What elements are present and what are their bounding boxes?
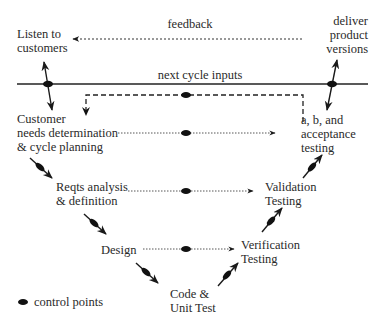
control-point: [181, 130, 191, 136]
node-customer-needs: Customer needs determination & cycle pla…: [17, 112, 118, 154]
node-validation-testing: Validation Testing: [265, 180, 316, 208]
control-point: [181, 188, 191, 194]
node-deliver-product-versions: deliver product versions: [300, 14, 368, 56]
control-point: [43, 81, 53, 87]
v-model-diagram: Listen to customers feedback deliver pro…: [0, 0, 372, 321]
edge-feedback-label: feedback: [160, 17, 220, 31]
edge-next-cycle-inputs-label: next cycle inputs: [140, 68, 260, 82]
node-acceptance-testing: a, b, and acceptance testing: [301, 113, 356, 155]
control-point: [181, 92, 191, 98]
node-code-unit-test: Code & Unit Test: [170, 287, 216, 315]
control-point: [327, 81, 337, 87]
node-reqts-analysis: Reqts analysis & definition: [56, 180, 128, 208]
node-verification-testing: Verification Testing: [241, 238, 300, 266]
cycle-planning-loop: [86, 95, 303, 122]
control-point: [181, 246, 191, 252]
legend-control-point-icon: [18, 299, 28, 305]
node-listen-to-customers: Listen to customers: [17, 27, 68, 55]
legend-control-points: control points: [34, 295, 103, 309]
node-design: Design: [101, 243, 136, 257]
